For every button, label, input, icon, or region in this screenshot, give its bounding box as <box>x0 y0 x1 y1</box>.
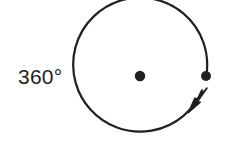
angle-measure-label: 360° <box>18 65 62 88</box>
angle-diagram-figure: 360° <box>0 0 245 157</box>
rotation-arc <box>73 0 207 132</box>
center-dot <box>135 71 145 81</box>
angle-diagram-canvas: 360° <box>0 0 245 157</box>
terminal-dot <box>201 71 211 81</box>
arrowhead-icon <box>189 88 208 113</box>
